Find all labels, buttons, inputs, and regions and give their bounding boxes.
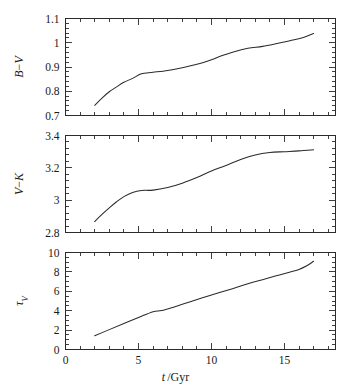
three-panel-plot: 1.110.90.80.7B−V 3.43.232.8V−K 1086420τV… bbox=[0, 0, 349, 391]
panel-tauv-y-axis-label: τV bbox=[12, 294, 30, 305]
panel-tauv-y-tick-label: 4 bbox=[54, 305, 60, 317]
panel-tau-v: 1086420τV bbox=[12, 247, 336, 356]
panel-bv-y-tick-label: 0.9 bbox=[45, 61, 60, 73]
panel-bv-y-tick-label: 1 bbox=[54, 37, 60, 49]
panel-vk-y-tick-label: 3.2 bbox=[45, 162, 60, 174]
shared-x-axis: 051015t/Gyr bbox=[63, 354, 291, 384]
x-tick-label: 0 bbox=[63, 354, 69, 366]
panel-tauv-y-tick-label: 2 bbox=[54, 324, 60, 336]
x-tick-label: 10 bbox=[206, 354, 218, 366]
x-axis-label: t/Gyr bbox=[162, 370, 189, 384]
figure-container: 1.110.90.80.7B−V 3.43.232.8V−K 1086420τV… bbox=[0, 0, 349, 391]
panel-tauv-y-tick-label: 10 bbox=[48, 247, 60, 259]
panel-vk-y-tick-label: 3 bbox=[54, 194, 60, 206]
panel-vk-frame bbox=[66, 136, 336, 233]
x-tick-label: 15 bbox=[279, 354, 291, 366]
panel-vk-data-curve bbox=[95, 150, 314, 222]
panel-bv-y-tick-label: 0.7 bbox=[45, 110, 60, 122]
panel-bv-y-tick-label: 0.8 bbox=[45, 85, 60, 97]
panel-vk-y-tick-label: 2.8 bbox=[45, 227, 60, 239]
panel-tauv-y-tick-label: 8 bbox=[54, 266, 60, 278]
panel-v-minus-k: 3.43.232.8V−K bbox=[12, 130, 336, 239]
panel-tauv-y-tick-label: 0 bbox=[54, 344, 60, 356]
panel-b-minus-v: 1.110.90.80.7B−V bbox=[12, 13, 336, 122]
panel-tauv-y-tick-label: 6 bbox=[54, 285, 60, 297]
panel-bv-y-tick-label: 1.1 bbox=[45, 13, 60, 25]
panel-bv-data-curve bbox=[95, 34, 314, 106]
panel-vk-y-axis-label: V−K bbox=[12, 172, 26, 195]
panel-vk-y-tick-label: 3.4 bbox=[45, 130, 60, 142]
x-tick-label: 5 bbox=[136, 354, 142, 366]
panel-bv-frame bbox=[66, 19, 336, 116]
panel-tauv-data-curve bbox=[95, 261, 314, 336]
panel-tauv-frame bbox=[66, 253, 336, 350]
panel-bv-y-axis-label: B−V bbox=[12, 55, 26, 78]
